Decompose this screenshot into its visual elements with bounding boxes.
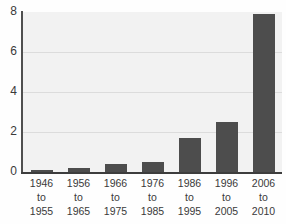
x-axis-category-line: 1946 [23, 176, 60, 190]
x-axis-category-line: to [23, 190, 60, 204]
x-axis-category-line: 1986 [171, 176, 208, 190]
x-axis-category-label: 2006to2010 [245, 176, 282, 218]
plot-area [23, 12, 282, 172]
x-axis-category-line: 1966 [97, 176, 134, 190]
gridline-2 [23, 132, 282, 133]
x-axis-category-line: 1955 [23, 204, 60, 218]
x-axis-category-line: 1995 [171, 204, 208, 218]
y-axis-tick-labels: 8 6 4 2 0 [0, 0, 19, 224]
x-axis-category-label: 1996to2005 [208, 176, 245, 218]
x-axis-category-label: 1966to1975 [97, 176, 134, 218]
x-axis-category-line: 1985 [134, 204, 171, 218]
x-axis-category-line: 2010 [245, 204, 282, 218]
bar [142, 162, 164, 172]
x-axis-category-line: 2006 [245, 176, 282, 190]
x-axis-category-line: to [134, 190, 171, 204]
x-axis-category-label: 1976to1985 [134, 176, 171, 218]
bar [253, 14, 275, 172]
x-axis-category-line: 1976 [134, 176, 171, 190]
x-axis-category-label: 1986to1995 [171, 176, 208, 218]
bar [216, 122, 238, 172]
x-axis-category-line: 1996 [208, 176, 245, 190]
y-axis-line [21, 11, 23, 173]
x-axis-category-line: 1965 [60, 204, 97, 218]
x-axis-category-label: 1956to1965 [60, 176, 97, 218]
x-axis-category-line: 2005 [208, 204, 245, 218]
x-axis-category-line: 1975 [97, 204, 134, 218]
gridline-6 [23, 52, 282, 53]
y-tick-label-2: 2 [0, 125, 17, 137]
x-axis-category-line: to [60, 190, 97, 204]
x-axis-tick-labels: 1946to19551956to19651966to19751976to1985… [23, 176, 282, 224]
gridline-4 [23, 92, 282, 93]
y-tick-label-0: 0 [0, 165, 17, 177]
x-axis-category-line: to [97, 190, 134, 204]
x-axis-category-label: 1946to1955 [23, 176, 60, 218]
bar [105, 164, 127, 172]
bar [179, 138, 201, 172]
x-axis-line [21, 172, 282, 174]
x-axis-category-line: 1956 [60, 176, 97, 190]
y-tick-label-6: 6 [0, 45, 17, 57]
bar-chart: 8 6 4 2 0 1946to19551956to19651966to1975… [0, 0, 286, 224]
y-tick-label-4: 4 [0, 85, 17, 97]
y-tick-label-8: 8 [0, 5, 17, 17]
x-axis-category-line: to [245, 190, 282, 204]
x-axis-category-line: to [208, 190, 245, 204]
x-axis-category-line: to [171, 190, 208, 204]
